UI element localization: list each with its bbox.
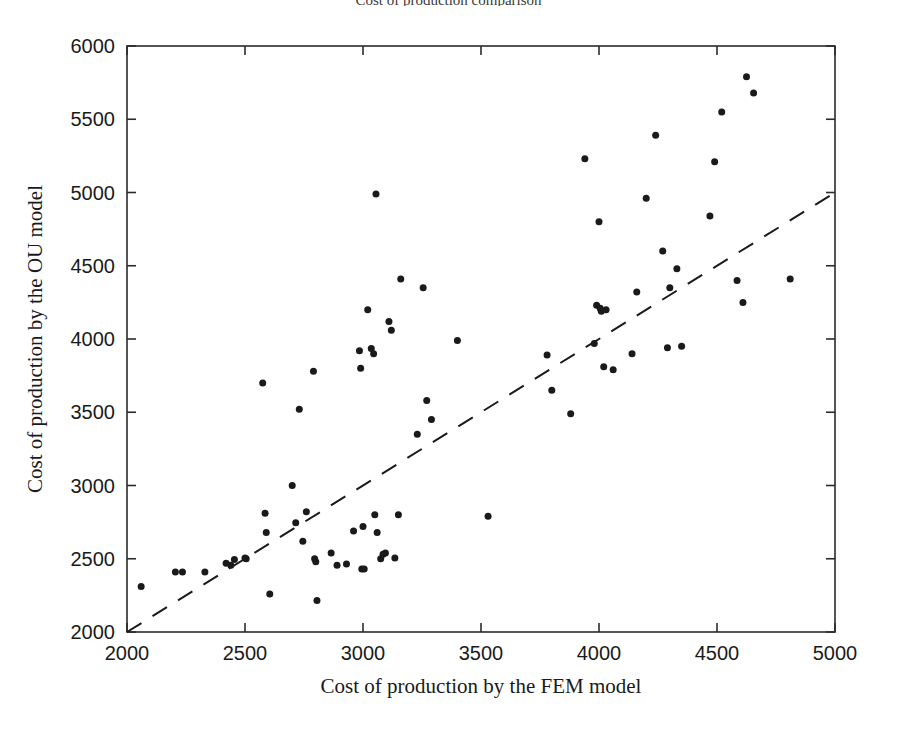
y-tick-label: 3000 [71, 475, 116, 497]
data-point [666, 284, 673, 291]
data-point [313, 597, 320, 604]
data-point [397, 275, 404, 282]
x-tick-label: 4000 [577, 642, 622, 664]
x-axis-ticks [127, 46, 835, 632]
data-point [603, 306, 610, 313]
data-point [414, 431, 421, 438]
data-point [600, 363, 607, 370]
data-point [266, 590, 273, 597]
data-point [391, 555, 398, 562]
data-point [633, 289, 640, 296]
data-point [423, 397, 430, 404]
data-point [678, 343, 685, 350]
data-point [382, 549, 389, 556]
y-tick-label: 3500 [71, 401, 116, 423]
data-point [673, 265, 680, 272]
y-tick-label: 2000 [71, 621, 116, 643]
data-point [643, 195, 650, 202]
data-point [388, 327, 395, 334]
y-tick-label: 5500 [71, 108, 116, 130]
plot-border [127, 46, 835, 632]
y-tick-label: 6000 [71, 35, 116, 57]
data-point [310, 368, 317, 375]
data-point [179, 568, 186, 575]
data-point-series [138, 73, 794, 604]
y-tick-label: 2500 [71, 548, 116, 570]
data-point [292, 519, 299, 526]
data-point [659, 248, 666, 255]
scatter-plot: 2000250030003500400045005000 20002500300… [0, 0, 897, 730]
y-axis-tick-labels: 200025003000350040004500500055006000 [71, 35, 116, 643]
data-point [364, 306, 371, 313]
data-point [596, 218, 603, 225]
data-point [395, 511, 402, 518]
data-point [664, 344, 671, 351]
data-point [243, 555, 250, 562]
data-point [485, 513, 492, 520]
y-tick-label: 4500 [71, 255, 116, 277]
data-point [231, 556, 238, 563]
data-point [420, 284, 427, 291]
y-tick-label: 5000 [71, 182, 116, 204]
data-point [454, 337, 461, 344]
data-point [328, 549, 335, 556]
data-point [567, 410, 574, 417]
figure-container: Cost of production comparison 2000250030… [0, 0, 897, 730]
data-point [544, 352, 551, 359]
data-point [385, 318, 392, 325]
x-axis-title: Cost of production by the FEM model [321, 674, 642, 698]
data-point [360, 523, 367, 530]
data-point [787, 275, 794, 282]
data-point [591, 340, 598, 347]
data-point [263, 529, 270, 536]
x-axis-tick-labels: 2000250030003500400045005000 [105, 642, 858, 664]
data-point [739, 299, 746, 306]
data-point [374, 529, 381, 536]
data-point [201, 568, 208, 575]
data-point [138, 583, 145, 590]
x-tick-label: 4500 [695, 642, 740, 664]
data-point [718, 108, 725, 115]
data-point [356, 347, 363, 354]
data-point [259, 379, 266, 386]
data-point [370, 350, 377, 357]
x-tick-label: 2500 [223, 642, 268, 664]
data-point [361, 566, 368, 573]
data-point [299, 538, 306, 545]
data-point [371, 511, 378, 518]
data-point [734, 277, 741, 284]
data-point [172, 568, 179, 575]
data-point [706, 212, 713, 219]
data-point [548, 387, 555, 394]
data-point [343, 560, 350, 567]
data-point [652, 132, 659, 139]
x-tick-label: 3000 [341, 642, 386, 664]
data-point [227, 562, 234, 569]
y-axis-title: Cost of production by the OU model [23, 185, 47, 493]
x-tick-label: 3500 [459, 642, 504, 664]
plot-frame [127, 46, 835, 632]
data-point [711, 158, 718, 165]
data-point [428, 416, 435, 423]
y-tick-label: 4000 [71, 328, 116, 350]
data-point [312, 558, 319, 565]
data-point [350, 527, 357, 534]
data-point [357, 365, 364, 372]
data-point [262, 510, 269, 517]
data-point [303, 508, 310, 515]
y-axis-ticks [127, 46, 835, 632]
data-point [372, 190, 379, 197]
data-point [629, 350, 636, 357]
data-point [289, 482, 296, 489]
data-point [296, 406, 303, 413]
data-point [743, 73, 750, 80]
data-point [334, 562, 341, 569]
data-point [581, 155, 588, 162]
data-point [610, 366, 617, 373]
data-point [750, 89, 757, 96]
x-tick-label: 5000 [813, 642, 858, 664]
x-tick-label: 2000 [105, 642, 150, 664]
